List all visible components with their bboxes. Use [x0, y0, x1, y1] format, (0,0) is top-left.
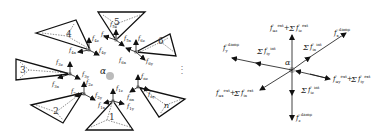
svg-text:fizint: fizint — [307, 85, 320, 95]
svg-text:f6z: f6z — [137, 34, 145, 43]
label-lower-left: fαxext+ Σ fixext — [215, 88, 254, 99]
svg-text:3: 3 — [20, 65, 26, 75]
svg-text:f5x: f5x — [123, 34, 132, 43]
svg-text:f1z: f1z — [115, 84, 123, 93]
label-upper-mid: Σ fixint — [302, 42, 322, 53]
label-top: fαzext+ Σ fizext — [269, 23, 309, 34]
svg-text:fydamp: fydamp — [222, 42, 240, 53]
svg-text:fzdamp: fzdamp — [295, 112, 312, 123]
svg-text:Σ: Σ — [256, 47, 263, 56]
label-right: fαyext+ Σ fiyext — [332, 74, 371, 85]
particle-1: 1 f1z f1x f1y — [86, 84, 135, 130]
center-label: α — [100, 66, 106, 76]
svg-text:fαxext+: fαxext+ — [215, 88, 236, 98]
particle-2: 2 f2z f2x f2y — [31, 78, 103, 123]
center-label-right: α — [285, 58, 291, 67]
svg-text:n: n — [164, 101, 169, 110]
svg-text:f4y: f4y — [98, 46, 107, 55]
svg-text:Σ: Σ — [302, 43, 309, 52]
svg-text:f1x: f1x — [97, 101, 106, 110]
arrow-y-ext-out — [310, 74, 330, 79]
svg-text:f4z: f4z — [91, 34, 99, 43]
svg-text:f2y: f2y — [94, 91, 103, 100]
label-bottom: fzdamp — [295, 112, 312, 123]
particle-4: 4 f4z f4x f4y — [36, 20, 107, 55]
svg-text:fixext: fixext — [240, 88, 254, 98]
arrow-x-int — [292, 57, 310, 70]
diagram-canvas: α 5 f5z f5y f5x 4 f4z f4x f — [0, 0, 378, 140]
svg-text:Σ: Σ — [300, 86, 307, 95]
svg-text:Σ: Σ — [233, 89, 240, 98]
svg-text:6: 6 — [158, 36, 164, 46]
svg-text:f3x: f3x — [51, 80, 60, 89]
svg-text:fiyext: fiyext — [357, 74, 371, 84]
arrow-x-ext — [260, 70, 292, 90]
svg-text:f2x: f2x — [70, 87, 79, 96]
svg-text:f4x: f4x — [68, 46, 77, 55]
svg-text:fnx: fnx — [126, 93, 135, 102]
svg-text:fαzext+: fαzext+ — [269, 23, 290, 33]
svg-text:Σ: Σ — [288, 24, 295, 33]
svg-text:f3z: f3z — [55, 58, 63, 67]
particle-n: n fnz fnx fny — [126, 72, 185, 117]
svg-text:f5y: f5y — [100, 30, 109, 39]
label-lower-mid: Σ fizint — [300, 85, 320, 96]
svg-text:fizext: fizext — [295, 23, 309, 33]
svg-text:fiyint: fiyint — [263, 46, 276, 56]
svg-text:f1y: f1y — [126, 102, 135, 111]
ellipsis: ⋮ — [177, 64, 187, 75]
label-left-upper: fydamp — [222, 42, 240, 53]
label-left-mid: Σ fiyint — [256, 46, 276, 57]
svg-text:f6y: f6y — [145, 57, 154, 66]
right-panel: α fαzext+ Σ fizext fxdamp Σ fixint f — [215, 23, 371, 123]
svg-text:f6x: f6x — [118, 56, 127, 65]
svg-text:Σ: Σ — [350, 75, 357, 84]
svg-text:f2z: f2z — [85, 78, 93, 87]
center-particle — [106, 72, 114, 80]
svg-text:4: 4 — [66, 29, 72, 39]
svg-text:1: 1 — [109, 112, 115, 122]
svg-text:fαyext+: fαyext+ — [332, 74, 353, 84]
svg-text:2: 2 — [53, 106, 59, 116]
particle-3: 3 f3z f3x f3y — [16, 58, 90, 89]
arrow-y-damp — [232, 58, 256, 63]
left-panel: α 5 f5z f5y f5x 4 f4z f4x f — [16, 12, 187, 130]
svg-text:fnz: fnz — [140, 72, 148, 81]
